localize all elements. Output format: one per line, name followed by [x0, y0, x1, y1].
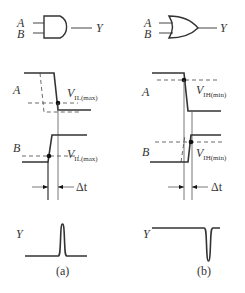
and-gate: A B Y	[16, 16, 104, 41]
threshold-label-a: VIL(max)	[67, 86, 98, 102]
crossing-point-b	[189, 140, 194, 145]
panel-b: A B Y A VIH(min) B VIH(min)	[141, 16, 228, 278]
or-gate: A B Y	[143, 16, 228, 41]
output-waveform: Y	[16, 224, 87, 256]
threshold-label-a: VIH(min)	[196, 83, 227, 99]
and-gate-body	[44, 16, 67, 38]
logic-hazard-diagram: A B Y A VIL(max) B VIL(max)	[0, 0, 245, 293]
signal-label-b: B	[142, 145, 150, 159]
threshold-label-b: VIH(min)	[196, 146, 227, 162]
crossing-point-b	[47, 154, 52, 159]
arrowhead-right	[192, 185, 197, 189]
gate-input-label-b: B	[144, 27, 152, 41]
or-gate-body	[169, 16, 198, 38]
delta-t-label: Δt	[76, 180, 88, 194]
panel-a: A B Y A VIL(max) B VIL(max)	[12, 16, 104, 278]
gate-input-label-b: B	[17, 27, 25, 41]
output-glitch-trace	[25, 224, 87, 256]
output-waveform: Y	[143, 227, 220, 261]
delta-t-annotation: Δt	[32, 180, 88, 194]
delta-t-annotation: Δt	[168, 180, 223, 194]
gate-output-label: Y	[96, 21, 104, 35]
signal-label-a: A	[141, 85, 150, 99]
output-signal-label: Y	[143, 227, 151, 241]
gate-output-label: Y	[220, 21, 228, 35]
delta-t-label: Δt	[211, 180, 223, 194]
caption-a: (a)	[56, 264, 69, 278]
signal-label-b: B	[13, 141, 21, 155]
output-signal-label: Y	[16, 227, 24, 241]
signal-label-a: A	[12, 83, 21, 97]
threshold-label-b: VIL(max)	[67, 147, 98, 163]
waveform-a: A VIL(max)	[12, 73, 98, 112]
output-glitch-trace	[152, 228, 220, 261]
caption-b: (b)	[197, 264, 211, 278]
arrowhead-left	[43, 185, 48, 189]
waveform-b: B VIH(min)	[142, 135, 227, 162]
arrowhead-right	[58, 185, 63, 189]
arrowhead-left	[179, 185, 184, 189]
